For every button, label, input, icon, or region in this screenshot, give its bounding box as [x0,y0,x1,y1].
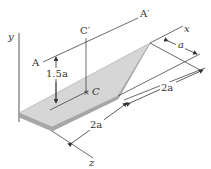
centroid-marker: × [83,88,90,97]
label-a-prime: A′ [139,8,150,19]
label-2a-front: 2a [90,119,102,130]
plate-diagram: y A A′ C′ × C 1.5a x a 2a z 2a [0,0,211,169]
ext-line-1 [150,43,200,70]
label-2a-right: 2a [161,82,173,93]
y-axis-label: y [7,31,14,42]
z-axis [52,131,93,158]
axis-aa-prime [43,18,138,62]
label-c-prime: C′ [80,25,91,36]
x-axis-label: x [184,23,190,34]
label-a-width: a [178,39,184,50]
z-axis-label: z [88,157,95,168]
label-1-5a: 1.5a [46,68,68,79]
label-a: A [31,57,40,68]
label-c: C [92,86,100,97]
